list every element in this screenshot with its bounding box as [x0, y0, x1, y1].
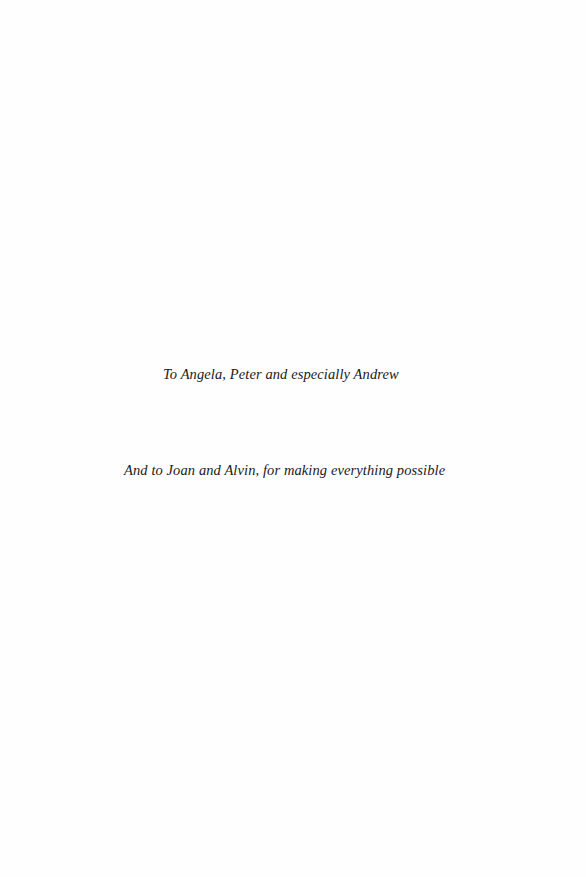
dedication-line-1: To Angela, Peter and especially Andrew [163, 366, 399, 383]
dedication-line-2: And to Joan and Alvin, for making everyt… [124, 462, 445, 479]
dedication-page: To Angela, Peter and especially Andrew A… [0, 0, 586, 877]
